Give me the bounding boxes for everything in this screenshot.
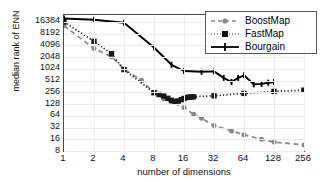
- legend-entry-fastmap: FastMap: [210, 27, 313, 40]
- legend-marker-fastmap: [210, 28, 240, 40]
- x-axis-tick-1: 1: [60, 153, 65, 163]
- legend-marker-boostmap: [210, 15, 240, 27]
- x-axis-tick-8: 8: [150, 153, 155, 163]
- x-axis-tick-64: 64: [238, 153, 249, 163]
- legend-marker-bourgain: [210, 41, 240, 53]
- x-axis-tick-256: 256: [295, 153, 311, 163]
- x-axis-tick-4: 4: [120, 153, 125, 163]
- x-axis-label: number of dimensions: [63, 166, 305, 177]
- chart-figure: 1638481924096204810245122561286432168 me…: [0, 0, 323, 182]
- legend-entry-boostmap: BoostMap: [210, 14, 313, 27]
- chart-legend: BoostMap FastMap Bourgain: [205, 11, 317, 54]
- legend-label-fastmap: FastMap: [245, 28, 284, 39]
- x-axis-tick-16: 16: [178, 153, 189, 163]
- legend-entry-bourgain: Bourgain: [210, 40, 313, 53]
- x-axis-tick-32: 32: [208, 153, 219, 163]
- legend-label-boostmap: BoostMap: [245, 15, 290, 26]
- x-axis-tick-2: 2: [90, 153, 95, 163]
- legend-label-bourgain: Bourgain: [245, 41, 285, 52]
- x-axis-tick-128: 128: [265, 153, 281, 163]
